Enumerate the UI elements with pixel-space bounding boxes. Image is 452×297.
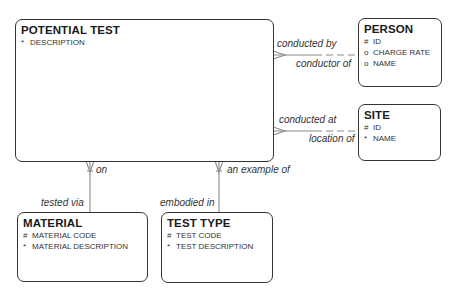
- label-embodied-in: embodied in: [160, 197, 214, 208]
- attribute: *MATERIAL DESCRIPTION: [23, 241, 142, 252]
- attribute: *TEST DESCRIPTION: [167, 241, 267, 252]
- entity-title: POTENTIAL TEST: [21, 24, 268, 37]
- label-conductor-of: conductor of: [296, 58, 351, 69]
- attribute: oCHARGE RATE: [364, 47, 436, 58]
- attribute: #MATERIAL CODE: [23, 230, 142, 241]
- label-an-example-of: an example of: [227, 164, 290, 175]
- attribute: #ID: [364, 36, 436, 47]
- attribute: *NAME: [364, 133, 435, 144]
- attribute: oNAME: [364, 58, 436, 69]
- relationship-tested-on: [86, 161, 94, 212]
- relationship-example-of: [215, 161, 223, 212]
- entity-title: PERSON: [364, 23, 436, 36]
- entity-title: TEST TYPE: [167, 217, 267, 230]
- entity-person[interactable]: PERSON #ID oCHARGE RATE oNAME: [358, 18, 442, 87]
- entity-test-type[interactable]: TEST TYPE #TEST CODE *TEST DESCRIPTION: [161, 212, 273, 283]
- entity-potential-test[interactable]: POTENTIAL TEST *DESCRIPTION: [15, 19, 274, 162]
- entity-title: MATERIAL: [23, 217, 142, 230]
- attribute: #TEST CODE: [167, 230, 267, 241]
- entity-title: SITE: [364, 109, 435, 122]
- attribute: #ID: [364, 122, 435, 133]
- entity-site[interactable]: SITE #ID *NAME: [358, 104, 441, 161]
- label-tested-via: tested via: [41, 197, 84, 208]
- entity-material[interactable]: MATERIAL #MATERIAL CODE *MATERIAL DESCRI…: [17, 212, 148, 282]
- label-on: on: [96, 164, 107, 175]
- label-conducted-by: conducted by: [277, 38, 337, 49]
- label-conducted-at: conducted at: [279, 114, 336, 125]
- attribute: *DESCRIPTION: [21, 37, 268, 48]
- label-location-of: location of: [309, 133, 355, 144]
